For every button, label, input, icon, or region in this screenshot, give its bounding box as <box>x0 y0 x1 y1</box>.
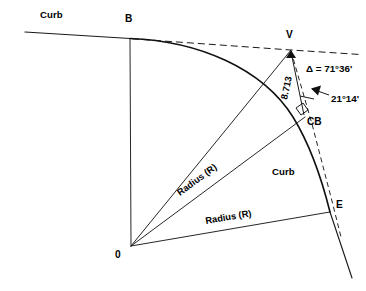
label-radius-lower: Radius (R) <box>205 208 253 226</box>
tangent-line-dashed <box>132 39 360 55</box>
label-curb-right: Curb <box>272 166 295 177</box>
curb-line-below-e <box>330 212 352 278</box>
label-radius-upper: Radius (R) <box>175 162 218 198</box>
label-delta-angle: Δ = 71°36' <box>306 63 352 74</box>
label-external-distance: 8.713 <box>278 75 294 100</box>
label-point-e: E <box>336 199 343 210</box>
back-tangent-dashed-v-to-e <box>291 51 341 237</box>
label-point-cb: CB <box>307 116 322 127</box>
curve-diagram-canvas: Curb B V Δ = 71°36' 21°14' 8.713 CB Curb… <box>0 0 366 291</box>
label-half-angle: 21°14' <box>331 93 359 104</box>
external-distance-line <box>291 52 304 115</box>
label-point-b: B <box>125 13 132 24</box>
curve-diagram: Curb B V Δ = 71°36' 21°14' 8.713 CB Curb… <box>0 0 366 291</box>
arrowhead-icon <box>311 86 321 96</box>
label-curb-top: Curb <box>40 9 63 20</box>
radius-line-o-to-cb <box>131 117 305 246</box>
radius-line-o-to-b <box>130 39 131 247</box>
label-point-o: 0 <box>115 249 121 260</box>
dimension-tick-mark <box>300 96 314 99</box>
curb-tangent-line-solid <box>25 32 130 39</box>
label-point-v: V <box>286 29 293 40</box>
